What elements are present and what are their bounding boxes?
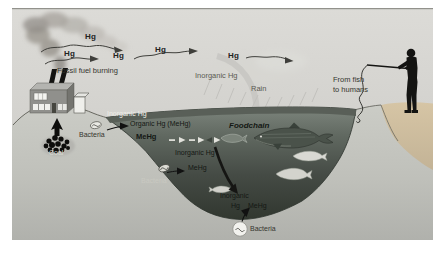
surface-bacteria-label: Bacteria: [79, 131, 105, 138]
deep-bacteria-label: Bacteria: [250, 225, 276, 232]
factory-window: [63, 104, 67, 110]
mid-bacteria-label: Bacteria: [141, 177, 167, 184]
factory-door: [52, 103, 56, 113]
hg-label-2: Hg: [64, 50, 75, 58]
deep-inorganic-hg-label-line2: Hg: [231, 202, 240, 209]
factory-window: [34, 93, 47, 100]
rain-label: Rain: [251, 85, 266, 93]
air-inorganic-hg-label: Inorganic Hg: [195, 72, 238, 80]
surface-mehg-label: MeHg: [136, 133, 156, 141]
from-fish-label-line1: From fish: [333, 76, 364, 84]
hg-label-4: Hg: [155, 46, 166, 54]
fossil-fuel-label: Fossil fuel burning: [57, 67, 118, 75]
hg-label-1: Hg: [85, 33, 96, 41]
deep-inorganic-hg-label-line1: Inorganic: [220, 192, 249, 199]
coal-label: Coal: [49, 149, 63, 156]
factory-window: [39, 104, 44, 110]
bacteria-icon: [233, 222, 247, 236]
factory-window: [33, 104, 38, 110]
mid-inorganic-hg-label: Inorganic Hg: [175, 149, 215, 156]
mid-mehg-label: MeHg: [188, 164, 207, 171]
hg-label-3: Hg: [113, 52, 124, 60]
from-fish-label-line2: to humans: [333, 86, 368, 94]
top-border-line: [12, 8, 433, 9]
foodchain-label: Foodchain: [229, 122, 269, 130]
factory-window: [45, 104, 50, 110]
deep-mehg-label: MeHg: [248, 202, 267, 209]
mercury-cycle-diagram: Hg Hg Hg Hg Hg Fossil fuel burning Inorg…: [0, 0, 439, 253]
organic-hg-label: Organic Hg (MeHg): [130, 120, 191, 127]
diagram-canvas: [0, 0, 439, 253]
hg-label-5: Hg: [228, 52, 239, 60]
factory-window: [58, 104, 62, 110]
surface-inorganic-hg-label: Inorganic Hg: [107, 110, 147, 117]
annex-building: [74, 97, 85, 113]
